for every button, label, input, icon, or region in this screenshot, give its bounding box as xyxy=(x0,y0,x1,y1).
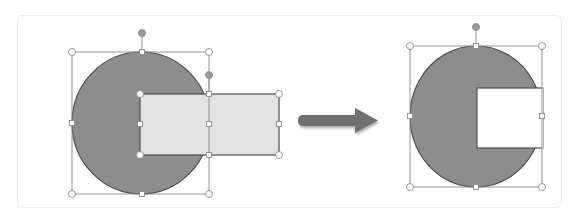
arrow-right-icon xyxy=(298,108,378,133)
resize-handle-center[interactable] xyxy=(207,122,212,127)
resize-handle-se[interactable] xyxy=(206,191,213,198)
resize-handle-ne[interactable] xyxy=(539,43,546,50)
resize-handle-w[interactable] xyxy=(138,122,143,127)
resize-handle-n[interactable] xyxy=(140,50,145,55)
resize-handle-e[interactable] xyxy=(540,114,545,119)
resize-handle-w[interactable] xyxy=(70,121,75,126)
rotate-handle-icon[interactable] xyxy=(206,72,213,79)
resize-handle-ne[interactable] xyxy=(206,49,213,56)
diagram-canvas xyxy=(0,0,575,219)
resize-handle-s[interactable] xyxy=(207,153,212,158)
resize-handle-w[interactable] xyxy=(408,114,413,119)
resize-handle-nw[interactable] xyxy=(407,43,414,50)
resize-handle-e[interactable] xyxy=(277,122,282,127)
notch-cutout xyxy=(477,88,543,148)
before-group xyxy=(69,30,283,198)
resize-handle-sw[interactable] xyxy=(407,184,414,191)
resize-handle-s[interactable] xyxy=(140,192,145,197)
resize-handle-n[interactable] xyxy=(474,44,479,49)
after-group xyxy=(407,24,561,191)
resize-handle-ne[interactable] xyxy=(276,91,283,98)
resize-handle-n[interactable] xyxy=(207,92,212,97)
resize-handle-s[interactable] xyxy=(474,185,479,190)
resize-handle-sw[interactable] xyxy=(137,152,144,159)
resize-handle-nw[interactable] xyxy=(69,49,76,56)
resize-handle-sw[interactable] xyxy=(69,191,76,198)
rotate-handle-icon[interactable] xyxy=(473,24,480,31)
resize-handle-se[interactable] xyxy=(276,152,283,159)
rotate-handle-icon[interactable] xyxy=(139,30,146,37)
resize-handle-se[interactable] xyxy=(539,184,546,191)
resize-handle-nw[interactable] xyxy=(137,91,144,98)
